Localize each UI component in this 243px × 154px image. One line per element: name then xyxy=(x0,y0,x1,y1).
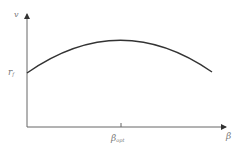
y-axis-label: v xyxy=(14,11,19,19)
chart-figure xyxy=(0,0,243,154)
rf-label: rf xyxy=(8,68,14,77)
rf-sub: f xyxy=(12,71,14,77)
beta-opt-sub: opt xyxy=(116,137,124,143)
x-axis-label: β xyxy=(226,132,231,141)
beta-opt-label: βopt xyxy=(111,134,124,143)
curve-line xyxy=(27,40,212,73)
